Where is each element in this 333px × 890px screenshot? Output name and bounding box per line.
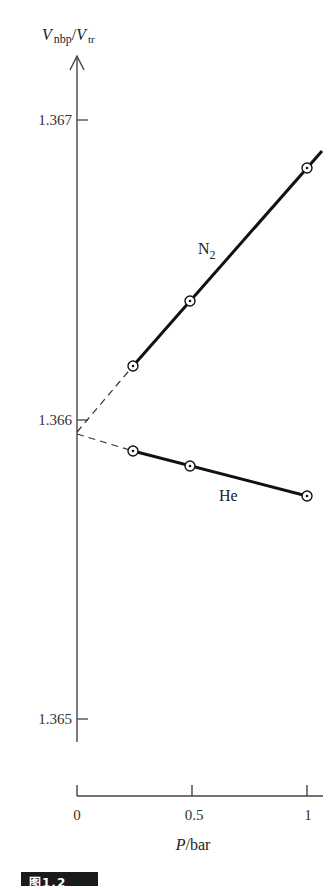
x-tick-label-05: 0.5	[185, 807, 204, 823]
figure-caption-badge: 图1.2	[21, 872, 98, 886]
y-axis-title: Vnbp/Vtr	[42, 26, 95, 46]
he-data-point	[302, 491, 312, 501]
x-axis-title: P/bar	[175, 836, 211, 853]
n2-data-point	[302, 163, 312, 173]
n2-extrapolation-dashed	[77, 366, 133, 432]
n2-fit-line	[133, 151, 322, 366]
y-tick-label-1367: 1.367	[38, 112, 72, 128]
n2-series-label: N2	[198, 240, 216, 262]
figure-caption-text: 图1.2	[29, 873, 66, 890]
n2-data-point	[128, 361, 138, 371]
y-tick-label-1365: 1.365	[38, 711, 72, 727]
x-tick-label-1: 1	[304, 807, 312, 823]
he-data-point	[128, 446, 138, 456]
he-extrapolation-dashed	[77, 434, 133, 451]
y-tick-label-1366: 1.366	[38, 412, 72, 428]
n2-data-point	[185, 296, 195, 306]
he-data-point	[185, 461, 195, 471]
x-tick-label-0: 0	[73, 807, 81, 823]
he-series-label: He	[219, 487, 238, 504]
